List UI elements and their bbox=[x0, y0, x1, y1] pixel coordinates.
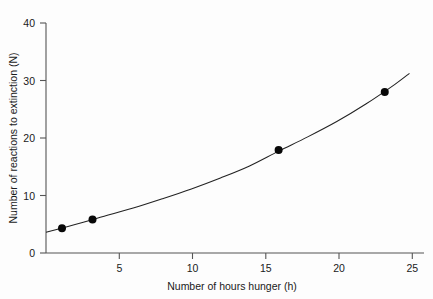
scatter-plot: 0 10 20 30 40 5 10 15 20 25 Number of ho… bbox=[0, 0, 433, 299]
x-tick-label-15: 15 bbox=[260, 262, 272, 274]
y-axis-title: Number of reactions to extinction (N) bbox=[7, 53, 19, 224]
y-tick-label-20: 20 bbox=[23, 132, 35, 144]
data-point-0 bbox=[58, 224, 66, 232]
data-point-1 bbox=[89, 216, 97, 224]
x-axis-title: Number of hours hunger (h) bbox=[167, 280, 297, 292]
x-tick-label-25: 25 bbox=[406, 262, 418, 274]
x-tick-label-10: 10 bbox=[187, 262, 199, 274]
y-tick-label-0: 0 bbox=[29, 247, 35, 259]
y-tick-label-40: 40 bbox=[23, 17, 35, 29]
plot-background bbox=[0, 0, 433, 299]
x-tick-label-20: 20 bbox=[333, 262, 345, 274]
data-point-3 bbox=[381, 88, 389, 96]
y-tick-label-10: 10 bbox=[23, 190, 35, 202]
x-tick-label-5: 5 bbox=[116, 262, 122, 274]
data-point-2 bbox=[275, 146, 283, 154]
chart-figure: 0 10 20 30 40 5 10 15 20 25 Number of ho… bbox=[0, 0, 433, 299]
y-tick-label-30: 30 bbox=[23, 75, 35, 87]
